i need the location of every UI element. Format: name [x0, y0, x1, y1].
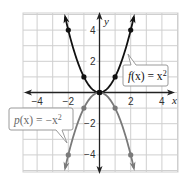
- f-label-callout: f(x) = x2: [123, 54, 168, 86]
- y-tick-label: 4: [90, 25, 96, 36]
- data-point: [66, 152, 71, 157]
- x-tick-label: 2: [128, 96, 134, 107]
- y-tick-label: −4: [84, 149, 96, 160]
- data-point: [128, 28, 133, 33]
- f-label: f(x) = x2: [128, 69, 167, 83]
- y-tick-label: 2: [90, 56, 96, 67]
- x-tick-label: −2: [63, 96, 75, 107]
- y-tick-label: −2: [84, 118, 96, 129]
- data-point: [113, 74, 118, 79]
- x-tick-label: −4: [31, 96, 43, 107]
- p-label-callout: p(x) = −x2: [9, 108, 73, 143]
- y-axis-label: y: [103, 15, 109, 27]
- p-label: p(x) = −x2: [13, 113, 62, 127]
- origin-point: [97, 90, 103, 96]
- x-axis-label: x: [171, 94, 177, 106]
- data-point: [66, 28, 71, 33]
- data-point: [81, 106, 86, 111]
- data-point: [128, 152, 133, 157]
- x-tick-label: 4: [159, 96, 165, 107]
- data-point: [81, 74, 86, 79]
- data-point: [113, 106, 118, 111]
- coordinate-plane: −4−22442−2−4 f(x) = x2 p(x) = −x2 y x: [0, 0, 181, 177]
